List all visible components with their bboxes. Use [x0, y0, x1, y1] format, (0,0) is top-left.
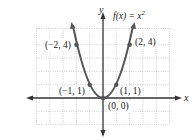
- x-axis-right-arrow-icon: [175, 96, 182, 101]
- point-1-1: [114, 83, 118, 87]
- label-2-4: (2, 4): [135, 37, 156, 48]
- x-axis-left-arrow-icon: [26, 96, 33, 101]
- axes: [30, 16, 178, 133]
- point-labels: (−2, 4) (−1, 1) (0, 0) (1, 1) (2, 4): [44, 37, 157, 112]
- label-1-1: (1, 1): [120, 86, 141, 97]
- y-axis-label: y: [98, 4, 104, 15]
- label-0-0: (0, 0): [108, 101, 129, 112]
- point-neg2-4: [74, 43, 78, 47]
- label-neg2-4: (−2, 4): [45, 40, 71, 51]
- x-axis-label: x: [183, 92, 189, 103]
- point-0-0: [101, 96, 105, 100]
- curve-left-arrow-icon: [70, 22, 76, 29]
- point-neg1-1: [88, 83, 92, 87]
- parabola-graph: x y (−2, 4) (−1, 1) (0, 0) (1, 1) (2, 4)…: [0, 0, 196, 140]
- point-2-4: [127, 43, 131, 47]
- curve-right-arrow-icon: [131, 22, 137, 29]
- y-axis-down-arrow-icon: [101, 130, 106, 137]
- function-title: f(x) = x2: [113, 9, 146, 22]
- label-neg1-1: (−1, 1): [59, 86, 85, 97]
